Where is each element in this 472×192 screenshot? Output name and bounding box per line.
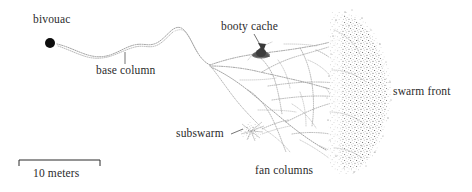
label-swarm-front: swarm front: [393, 85, 451, 97]
label-subswarm: subswarm: [176, 127, 224, 139]
scale-bar: [19, 160, 100, 166]
label-booty-cache: booty cache: [221, 20, 278, 32]
swarm-front-cloud: [327, 10, 392, 175]
bivouac-marker: [45, 38, 55, 48]
subswarm-branch: [260, 120, 290, 134]
base-column-trail: [57, 27, 210, 65]
label-fan-columns: fan columns: [255, 164, 313, 176]
swarm-raid-diagram: .trail{fill:none;stroke:#8f8f8f;stroke-w…: [0, 0, 472, 192]
label-bivouac: bivouac: [33, 13, 70, 25]
subswarm-cluster: [240, 122, 264, 141]
label-base-column: base column: [96, 64, 155, 76]
scale-bar-label: 10 meters: [33, 167, 79, 179]
